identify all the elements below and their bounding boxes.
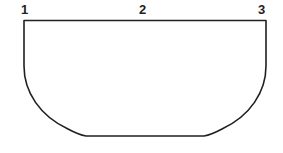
figure-canvas: 1 2 3 [0, 0, 283, 153]
bowl-outline-path [24, 21, 266, 137]
vertex-label-1: 1 [21, 3, 28, 16]
bowl-outline-diagram [0, 0, 283, 153]
vertex-label-2: 2 [139, 3, 146, 16]
vertex-label-3: 3 [258, 3, 265, 16]
